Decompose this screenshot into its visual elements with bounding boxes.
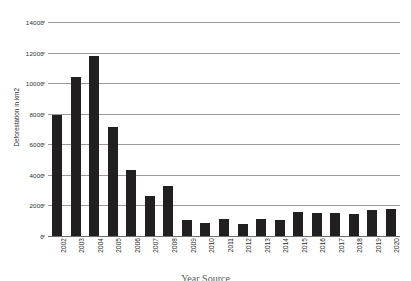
- x-tick-label: 2011: [227, 238, 234, 252]
- bars-layer: [48, 22, 400, 236]
- y-tick-mark: [41, 144, 45, 145]
- bar: [349, 214, 359, 236]
- x-tick-label: 2012: [245, 238, 252, 253]
- bar: [386, 209, 396, 236]
- x-tick-label: 2003: [78, 238, 85, 253]
- y-tick-mark: [41, 22, 45, 23]
- x-tick-label: 2002: [60, 238, 67, 253]
- x-axis-labels: 2002200320042005200620072008200920102011…: [48, 238, 400, 264]
- x-tick-label: 2005: [115, 238, 122, 253]
- bar: [108, 127, 118, 236]
- bar: [238, 224, 248, 236]
- bar: [200, 223, 210, 236]
- bar: [89, 56, 99, 236]
- bar: [126, 170, 136, 236]
- bar: [330, 213, 340, 236]
- x-tick-label: 2009: [190, 238, 197, 253]
- bar: [367, 210, 377, 236]
- x-tick-label: 2010: [208, 238, 215, 253]
- plot-area: [48, 22, 400, 236]
- y-tick-mark: [41, 52, 45, 53]
- bar: [293, 212, 303, 236]
- bar-chart: Deforestation in km2 0200040006000800010…: [0, 0, 411, 281]
- x-tick-label: 2007: [152, 238, 159, 253]
- x-tick-label: 2004: [97, 238, 104, 253]
- y-tick-mark: [41, 236, 45, 237]
- bar: [52, 115, 62, 236]
- bar: [275, 220, 285, 237]
- bar: [312, 213, 322, 236]
- x-tick-label: 2019: [375, 238, 382, 253]
- x-tick-label: 2013: [264, 238, 271, 253]
- x-tick-label: 2006: [134, 238, 141, 253]
- x-tick-label: 2018: [356, 238, 363, 253]
- x-axis-title: Year Source: [0, 268, 411, 281]
- y-tick-mark: [41, 83, 45, 84]
- y-tick-mark: [41, 174, 45, 175]
- x-tick-label: 2016: [319, 238, 326, 253]
- bar: [71, 77, 81, 236]
- x-tick-label: 2015: [301, 238, 308, 253]
- bar: [219, 219, 229, 236]
- x-tick-label: 2008: [171, 238, 178, 253]
- y-tick-mark: [41, 113, 45, 114]
- bar: [145, 196, 155, 237]
- bar: [182, 220, 192, 236]
- y-tick-mark: [41, 205, 45, 206]
- bar: [256, 219, 266, 236]
- x-tick-label: 2017: [338, 238, 345, 253]
- bar: [163, 186, 173, 236]
- x-tick-label: 2014: [282, 238, 289, 253]
- x-tick-label: 2020: [393, 238, 400, 253]
- y-axis-ticks: 02000400060008000100001200014000: [0, 22, 44, 236]
